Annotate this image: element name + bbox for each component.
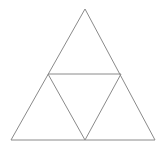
diagram-background: [0, 0, 165, 152]
triangle-diagram: Equilateral triangle divided into four c…: [0, 0, 165, 152]
